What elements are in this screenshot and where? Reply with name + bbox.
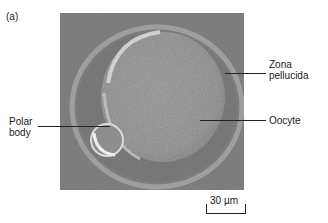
scale-bar: [206, 204, 246, 214]
zona-pellucida-leader: [225, 73, 266, 74]
polar-body-label: Polar body: [9, 116, 32, 138]
panel-label: (a): [6, 11, 18, 22]
oocyte-label: Oocyte: [269, 115, 301, 126]
oocyte-micrograph: [60, 13, 244, 190]
zona-pellucida-label: Zona pellucida: [269, 59, 308, 81]
oocyte-leader: [200, 120, 266, 121]
polar-body-leader: [38, 126, 110, 127]
